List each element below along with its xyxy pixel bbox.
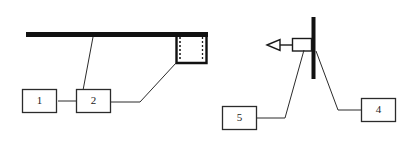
diagram-canvas: 1 2 5 4 xyxy=(0,0,400,146)
arrow-body-box xyxy=(293,39,312,52)
arrow-head-icon xyxy=(267,40,280,51)
left-panel: 1 2 xyxy=(23,35,209,113)
right-panel: 5 4 xyxy=(223,17,396,130)
leader-line-five xyxy=(257,50,304,118)
callout-label-one: 1 xyxy=(37,94,43,106)
callout-label-two: 2 xyxy=(91,94,97,106)
leader-line-four xyxy=(316,51,361,110)
callout-label-four: 4 xyxy=(376,103,382,115)
leader-line-two xyxy=(110,63,176,102)
technical-diagram: 1 2 5 4 xyxy=(0,0,400,146)
callout-label-five: 5 xyxy=(237,111,243,123)
